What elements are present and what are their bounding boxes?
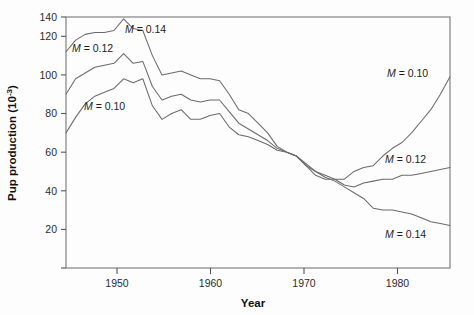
y-tick-label-40: 40 [45, 185, 57, 197]
series-line-m-0-14 [66, 19, 450, 226]
y-tick-label-80: 80 [45, 107, 57, 119]
y-tick-label-100: 100 [39, 69, 57, 81]
y-tick-label-120: 120 [39, 30, 57, 42]
annotation-m014-right: M = 0.14 [385, 228, 426, 240]
y-axis-ticks [61, 17, 66, 268]
x-tick-label-1980: 1980 [386, 277, 410, 289]
y-axis-title-main: Pup production (10 [6, 96, 18, 201]
x-axis-ticks [117, 268, 398, 274]
series-lines-group [66, 19, 450, 226]
annotation-m010-top: M = 0.10 [84, 100, 125, 112]
pup-production-chart: 20 40 60 80 100 120 140 1950 1960 1970 1… [0, 0, 474, 315]
x-axis-title: Year [241, 297, 266, 309]
x-tick-label-1970: 1970 [292, 277, 316, 289]
x-tick-label-1960: 1960 [199, 277, 223, 289]
annotation-m012-right: M = 0.12 [385, 153, 426, 165]
y-tick-label-20: 20 [45, 223, 57, 235]
x-tick-label-1950: 1950 [105, 277, 129, 289]
y-axis-title: Pup production (10-3) [5, 85, 18, 201]
annotation-m014-top: M = 0.14 [125, 23, 166, 35]
y-axis-title-close: ) [6, 85, 18, 89]
svg-text:Pup production (10-3): Pup production (10-3) [5, 85, 18, 201]
y-tick-label-140: 140 [39, 11, 57, 23]
y-tick-label-60: 60 [45, 146, 57, 158]
chart-canvas: 20 40 60 80 100 120 140 1950 1960 1970 1… [0, 0, 474, 315]
annotation-m010-right: M = 0.10 [387, 67, 428, 79]
annotation-m012-top: M = 0.12 [72, 42, 113, 54]
